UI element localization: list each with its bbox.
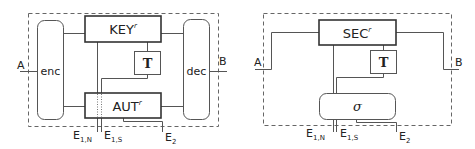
left-port-a: A [17,59,25,72]
right-diagram: SECr T σ A B E1,N E1,S E2 [254,14,463,146]
t-box-left-label: T [143,56,153,71]
left-port-e1s: E1,S [104,129,123,144]
left-diagram: enc dec KEYr T AUTr A B E1,N E1,S E2 [17,14,227,147]
right-port-b: B [455,56,463,69]
key-resource-label: KEYr [109,22,138,37]
diagram-canvas: enc dec KEYr T AUTr A B E1,N E1,S E2 [0,0,475,149]
t-box-right-label: T [379,55,389,70]
decoder-label: dec [187,65,207,78]
left-port-b: B [219,55,227,68]
secure-channel-label: SECr [343,26,373,41]
right-port-e1s: E1,S [340,127,359,142]
encoder-label: enc [41,65,61,78]
right-port-a: A [254,56,262,69]
right-port-e2: E2 [399,130,410,145]
right-port-e1n: E1,N [306,127,325,142]
left-port-e1n: E1,N [73,129,92,144]
left-port-e2: E2 [165,131,176,146]
auth-resource-label: AUTr [112,99,142,114]
simulator-label: σ [353,99,363,114]
